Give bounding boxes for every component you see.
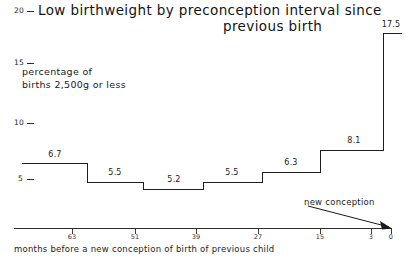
x-tick-label-15: 15 (316, 233, 325, 241)
step-segment-7 (383, 33, 402, 34)
step-segment-6 (320, 150, 384, 151)
step-riser-4 (262, 173, 263, 183)
step-value-label-1: 6.7 (48, 150, 61, 159)
y-tick-mark-20 (27, 11, 34, 12)
step-value-label-2: 5.5 (108, 168, 121, 177)
step-riser-5 (320, 151, 321, 173)
y-tick-label-20: 20 (14, 6, 24, 15)
y-tick-mark-15 (27, 63, 34, 64)
chart-title-line-2: previous birth (223, 18, 322, 34)
x-tick-label-63: 63 (68, 233, 77, 241)
step-value-label-4: 5.5 (225, 168, 238, 177)
step-segment-3 (143, 189, 204, 190)
y-tick-label-5: 5 (18, 174, 23, 183)
step-riser-6 (383, 33, 384, 151)
y-tick-mark-5 (27, 179, 34, 180)
x-tick-label-27: 27 (254, 233, 263, 241)
x-tick-label-39: 39 (192, 233, 201, 241)
step-value-label-6: 8.1 (347, 136, 360, 145)
y-axis-label-line-1: percentage of (22, 66, 92, 77)
step-riser-1 (87, 163, 88, 183)
step-segment-1 (22, 163, 88, 164)
x-tick-label-51: 51 (131, 233, 140, 241)
step-segment-5 (262, 172, 321, 173)
step-segment-2 (87, 182, 144, 183)
step-value-label-5: 6.3 (284, 158, 297, 167)
chart-figure: Low birthweight by preconception interva… (0, 0, 406, 265)
step-segment-4 (203, 182, 263, 183)
x-tick-label-0: 0 (389, 233, 393, 241)
step-value-label-7: 17.5 (382, 20, 401, 29)
x-axis-line (14, 228, 392, 229)
x-axis-label: months before a new conception of birth … (14, 244, 274, 254)
new-conception-annotation-label: new conception (304, 197, 375, 207)
y-tick-label-10: 10 (14, 118, 24, 127)
step-value-label-3: 5.2 (167, 175, 180, 184)
y-tick-mark-10 (27, 123, 34, 124)
chart-title-line-1: Low birthweight by preconception interva… (38, 2, 382, 18)
y-axis-label-line-2: births 2,500g or less (22, 79, 126, 90)
x-tick-label-3: 3 (369, 233, 373, 241)
